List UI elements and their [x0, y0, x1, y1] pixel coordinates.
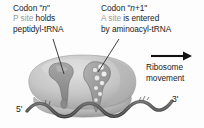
p-site-codon-prefix: Codon " [13, 3, 42, 13]
p-site-line-2: P site holds [13, 13, 64, 23]
p-site-line-3: peptidyl-tRNA [13, 24, 64, 34]
p-site-line-1: Codon "n" [13, 3, 64, 13]
label-five-prime-end: 5' [16, 104, 22, 114]
ribosome-movement-line-2: movement [146, 73, 184, 84]
label-ribosome-movement: Ribosome movement [146, 62, 184, 83]
a-site-term: A site [101, 13, 121, 23]
a-site-line-2: A site is entered [101, 13, 171, 23]
large-ribosomal-subunit [29, 55, 136, 109]
ribosome-movement-arrow [151, 52, 192, 61]
a-site-codon-prefix: Codon " [101, 3, 130, 13]
label-three-prime-end: 3' [172, 94, 178, 104]
a-site-line-1: Codon "n+1" [101, 3, 171, 13]
p-site-line-2-rest: holds [33, 13, 55, 23]
label-p-site: Codon "n" P site holds peptidyl-tRNA [13, 3, 64, 34]
figure-ribosome-translation: Codon "n" P site holds peptidyl-tRNA Cod… [0, 0, 204, 128]
a-site-line-3: by aminoacyl-tRNA [101, 24, 171, 34]
label-a-site: Codon "n+1" A site is entered by aminoac… [101, 3, 171, 34]
a-site-line-2-rest: is entered [121, 13, 159, 23]
p-site-codon-suffix: " [47, 3, 50, 13]
p-site-term: P site [13, 13, 33, 23]
a-site-codon-suffix: +1" [135, 3, 147, 13]
ribosome-movement-line-1: Ribosome [146, 62, 184, 73]
